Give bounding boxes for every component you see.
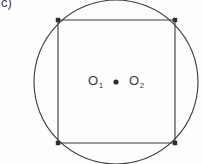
point-label-o1-base: O xyxy=(88,73,98,88)
centre-dot-icon xyxy=(113,79,118,84)
figure-panel-c: c) O1 O2 xyxy=(0,0,202,164)
point-label-o2-base: O xyxy=(129,73,139,88)
panel-label-c: c) xyxy=(1,0,12,9)
point-label-o1: O1 xyxy=(88,74,103,92)
corner-marker-bottom-left-icon xyxy=(56,141,60,145)
corner-marker-top-right-icon xyxy=(173,18,177,22)
corner-marker-bottom-right-icon xyxy=(173,141,177,145)
corner-marker-top-left-icon xyxy=(56,18,60,22)
point-label-o2-subscript: 2 xyxy=(140,81,144,90)
point-label-o2: O2 xyxy=(129,74,144,92)
point-label-o1-subscript: 1 xyxy=(99,81,103,90)
